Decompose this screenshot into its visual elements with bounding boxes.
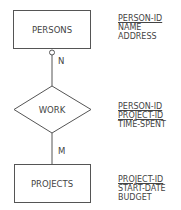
- attribute-project-id-key: PROJECT-ID: [118, 175, 166, 184]
- cardinality-n-label: N: [58, 56, 64, 66]
- cardinality-m-label: M: [58, 146, 65, 156]
- optional-participation-circle-icon: [50, 50, 55, 55]
- persons-attribute-list: PERSON-ID NAME ADDRESS: [118, 14, 162, 41]
- attribute-address: ADDRESS: [118, 32, 162, 41]
- attribute-start-date: START-DATE: [118, 184, 166, 193]
- projects-attribute-list: PROJECT-ID START-DATE BUDGET: [118, 175, 166, 202]
- attribute-person-id-key: PERSON-ID: [118, 14, 162, 23]
- relationship-work-label: WORK: [39, 105, 66, 115]
- entity-projects-label: PROJECTS: [31, 179, 73, 189]
- work-attribute-list: PERSON-ID PROJECT-ID TIME-SPENT: [118, 102, 166, 129]
- attribute-person-id-key: PERSON-ID: [118, 102, 166, 111]
- attribute-name: NAME: [118, 23, 162, 32]
- attribute-project-id-key: PROJECT-ID: [118, 111, 166, 120]
- entity-persons-label: PERSONS: [32, 25, 72, 35]
- attribute-time-spent: TIME-SPENT: [118, 120, 166, 129]
- attribute-budget: BUDGET: [118, 193, 166, 202]
